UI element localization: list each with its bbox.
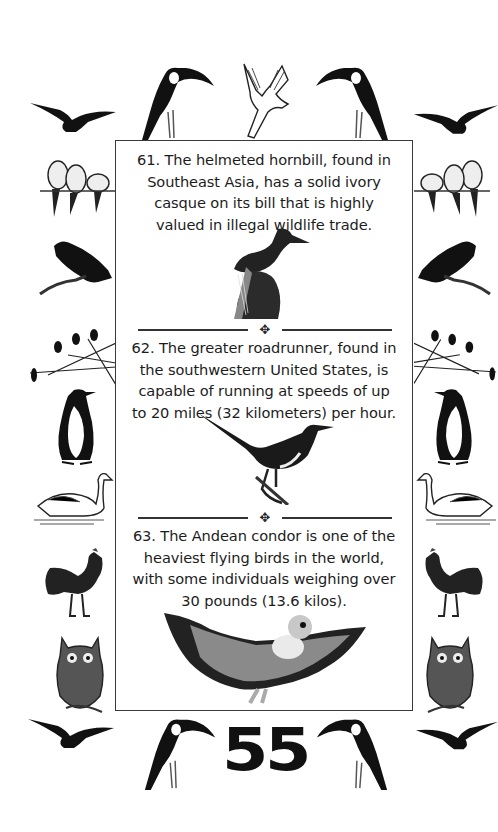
flying-bird-icon bbox=[412, 100, 498, 140]
penguin-icon bbox=[54, 386, 98, 466]
fact-62-line-1: 62. The greater roadrunner, found in bbox=[116, 337, 412, 359]
rooster-icon bbox=[40, 548, 110, 620]
fact-63-line-2: heaviest flying birds in the world, bbox=[116, 547, 412, 569]
fact-63-line-3: with some individuals weighing over bbox=[116, 568, 412, 590]
fact-63-line-1: 63. The Andean condor is one of the bbox=[116, 525, 412, 547]
cockatoo-icon bbox=[236, 60, 296, 142]
lovebirds-icon bbox=[414, 155, 490, 219]
fact-61-line-1: 61. The helmeted hornbill, found in bbox=[116, 149, 412, 171]
swan-icon bbox=[416, 470, 496, 526]
fact-61-line-3: casque on its bill that is highly bbox=[116, 192, 412, 214]
swan-icon bbox=[34, 470, 114, 526]
section-divider: ✥ bbox=[138, 325, 392, 335]
owl-icon bbox=[422, 634, 478, 714]
birds-on-branch-icon bbox=[414, 315, 498, 385]
andean-condor-icon bbox=[160, 605, 370, 705]
greater-roadrunner-icon bbox=[196, 413, 336, 505]
fact-63: 63. The Andean condor is one of the heav… bbox=[116, 525, 412, 611]
fact-61: 61. The helmeted hornbill, found in Sout… bbox=[116, 149, 412, 235]
toucan-icon bbox=[138, 62, 218, 142]
flying-bird-icon bbox=[30, 98, 118, 138]
helmeted-hornbill-icon bbox=[216, 225, 312, 321]
rooster-icon bbox=[418, 548, 488, 620]
hawk-icon bbox=[414, 236, 494, 300]
flying-bird-icon bbox=[414, 716, 498, 756]
page-number: 55 bbox=[208, 717, 323, 783]
owl-icon bbox=[52, 634, 108, 714]
fact-62-line-3: capable of running at speeds of up bbox=[116, 380, 412, 402]
section-divider: ✥ bbox=[138, 513, 392, 523]
flying-bird-icon bbox=[28, 714, 116, 754]
toucan-icon bbox=[312, 714, 392, 792]
penguin-icon bbox=[432, 386, 476, 466]
fact-62-line-2: the southwestern United States, is bbox=[116, 359, 412, 381]
toucan-icon bbox=[312, 62, 392, 142]
fact-62: 62. The greater roadrunner, found in the… bbox=[116, 337, 412, 423]
fact-61-line-2: Southeast Asia, has a solid ivory bbox=[116, 171, 412, 193]
birds-on-branch-icon bbox=[28, 315, 116, 385]
lovebirds-icon bbox=[40, 155, 116, 219]
facts-frame: 61. The helmeted hornbill, found in Sout… bbox=[115, 140, 413, 711]
hawk-icon bbox=[36, 236, 116, 300]
